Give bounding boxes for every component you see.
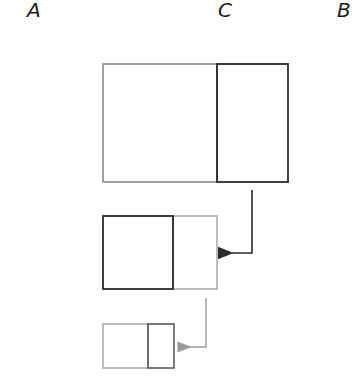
arrow-dark-icon xyxy=(232,190,252,253)
level-3-remainder xyxy=(148,324,174,368)
level-1-rectangle xyxy=(103,64,288,182)
level-3-rectangle xyxy=(103,324,174,368)
level-2-rectangle xyxy=(103,216,217,289)
arrow-gray-icon xyxy=(190,298,206,347)
subdivision-diagram xyxy=(0,0,361,389)
level-1-remainder xyxy=(217,64,288,182)
level-3-square xyxy=(103,324,148,368)
level-2-remainder xyxy=(173,216,217,289)
level-1-square xyxy=(103,64,217,182)
level-2-square xyxy=(103,216,173,289)
